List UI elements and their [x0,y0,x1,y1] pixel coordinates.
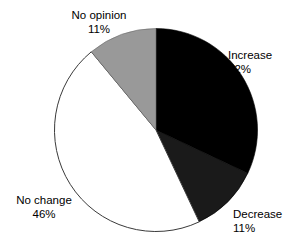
pie-label-decrease: Decrease 11% [233,207,299,235]
pie-label-increase-name: Increase [228,48,298,62]
pie-label-decrease-value: 11% [233,221,299,235]
pie-label-no-opinion-name: No opinion [64,8,134,22]
pie-label-no-change: No change 46% [8,193,80,221]
pie-label-no-opinion-value: 11% [64,22,134,36]
pie-label-increase-value: 32% [228,62,298,76]
pie-chart-figure: No opinion 11% Increase 32% Decrease 11%… [0,0,300,248]
pie-label-decrease-name: Decrease [233,207,299,221]
pie-label-no-opinion: No opinion 11% [64,8,134,36]
pie-label-increase: Increase 32% [228,48,298,76]
pie-label-no-change-name: No change [8,193,80,207]
pie-label-no-change-value: 46% [8,207,80,221]
